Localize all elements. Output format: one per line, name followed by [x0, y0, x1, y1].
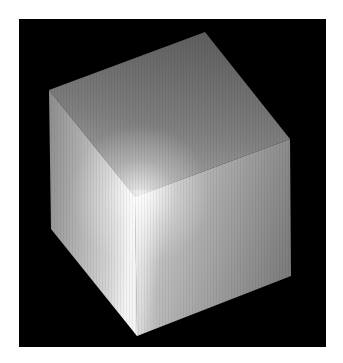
cube-render [0, 0, 343, 363]
image-stage [0, 0, 343, 363]
scanline-texture [40, 25, 300, 345]
